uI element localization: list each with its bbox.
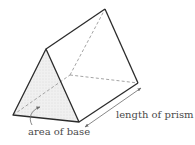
hidden-edge-back-left [70, 9, 105, 75]
base-face [13, 49, 79, 122]
length-arrow [85, 88, 141, 127]
prism-diagram: length of prism area of base [0, 0, 195, 145]
length-of-prism-label: length of prism [116, 109, 194, 120]
area-of-base-label: area of base [28, 126, 90, 137]
back-right-edge [105, 9, 138, 83]
top-ridge-edge [46, 9, 105, 49]
hidden-edge-back-bottom [70, 75, 138, 83]
